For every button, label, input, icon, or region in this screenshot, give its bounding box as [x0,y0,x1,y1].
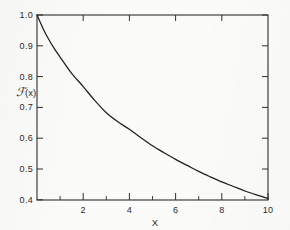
plot-frame [37,15,268,200]
x-axis-ticks-bottom-minor [60,196,245,200]
x-axis-ticks-top [83,15,222,21]
x-axis-ticks-bottom-major [83,193,268,200]
data-curve-f-of-x [37,15,268,199]
y-axis-ticks-left [37,15,43,200]
chart-plot [0,0,290,230]
figure-container: 1.0 0.9 0.8 0.7 0.6 0.5 0.4 2 4 6 8 10 X… [0,0,290,230]
y-axis-ticks-right [262,15,268,169]
